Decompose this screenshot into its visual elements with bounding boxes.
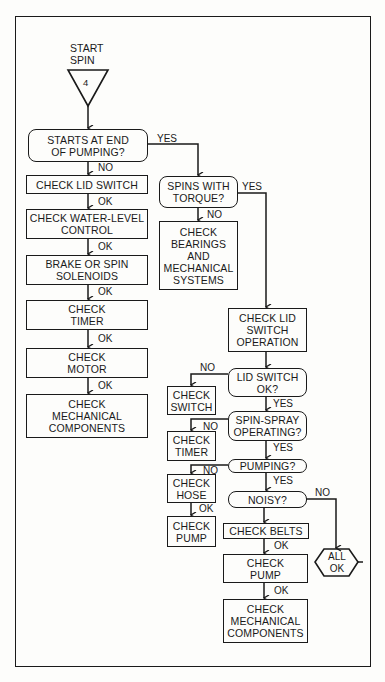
decision-text: PUMPING?: [240, 460, 296, 472]
start-spin-label: START SPIN: [70, 42, 103, 66]
decision-spin-spray-operating: SPIN-SPRAYOPERATING?: [228, 411, 307, 441]
step-text: CHECK BELTS: [229, 525, 302, 537]
step-text: SOLENOIDS: [46, 270, 129, 282]
step-text: TIMER: [173, 446, 210, 458]
ok-label-hose: OK: [199, 503, 213, 514]
step-text: PUMP: [173, 532, 210, 544]
ok-label-pump: OK: [274, 585, 288, 596]
decision-text-1: STARTS AT END: [47, 134, 129, 146]
ok-label: OK: [98, 241, 112, 252]
decision-starts-at-end-of-pumping: STARTS AT ENDOF PUMPING?: [28, 129, 148, 162]
step-text: CHECK: [173, 520, 210, 532]
decision-text: OK?: [237, 383, 299, 395]
start-connector-triangle: [68, 70, 108, 106]
no-label-decision-1: NO: [98, 162, 113, 173]
terminal-text: OK: [320, 563, 354, 575]
no-label-torque: NO: [207, 209, 222, 220]
terminal-text: ALL: [320, 551, 354, 563]
ok-label-belts: OK: [274, 540, 288, 551]
step-check-belts: CHECK BELTS: [223, 523, 309, 539]
decision-text: OPERATING?: [234, 426, 302, 438]
flow-connectors: [0, 0, 385, 682]
decision-text: SPINS WITH: [167, 180, 229, 192]
start-label-line1: START: [70, 42, 103, 54]
yes-label-decision-1: YES: [157, 133, 177, 144]
yes-label-spin-spray: YES: [273, 442, 293, 453]
step-text: COMPONENTS: [227, 627, 303, 639]
step-text: CHECK: [67, 351, 106, 363]
step-text: TIMER: [68, 315, 105, 327]
ok-label: OK: [98, 333, 112, 344]
step-text: CONTROL: [30, 224, 144, 236]
decision-noisy: NOISY?: [228, 491, 307, 508]
step-text: AND: [164, 250, 234, 262]
decision-text-2: OF PUMPING?: [47, 146, 129, 158]
decision-text: LID SWITCH: [237, 371, 299, 383]
decision-spins-with-torque: SPINS WITHTORQUE?: [159, 176, 238, 208]
no-label-lid-ok: NO: [200, 362, 215, 373]
step-check-pump: CHECKPUMP: [223, 554, 308, 583]
step-text: CHECK: [164, 226, 234, 238]
step-brake-or-spin-solenoids: BRAKE OR SPINSOLENOIDS: [26, 255, 148, 285]
step-check-pump-small: CHECKPUMP: [167, 516, 216, 547]
step-text: CHECK: [68, 303, 105, 315]
yes-label-torque: YES: [242, 181, 262, 192]
step-text: CHECK: [227, 603, 303, 615]
step-text: SYSTEMS: [164, 274, 234, 286]
step-text: PUMP: [247, 569, 284, 581]
all-ok-terminal: ALL OK: [320, 551, 354, 575]
start-label-line2: SPIN: [70, 54, 103, 66]
step-check-mechanical-components: CHECKMECHANICALCOMPONENTS: [26, 394, 148, 438]
yes-label-pumping: YES: [273, 475, 293, 486]
step-text: SWITCH: [237, 324, 299, 336]
step-text: BRAKE OR SPIN: [46, 258, 129, 270]
step-check-bearings: CHECKBEARINGSANDMECHANICALSYSTEMS: [159, 221, 238, 290]
step-text: MECHANICAL: [164, 262, 234, 274]
step-text: HOSE: [173, 489, 210, 501]
step-text: COMPONENTS: [49, 422, 125, 434]
step-check-water-level-control: CHECK WATER-LEVELCONTROL: [26, 209, 148, 239]
decision-text: TORQUE?: [167, 192, 229, 204]
step-text: CHECK: [170, 389, 212, 401]
decision-pumping: PUMPING?: [228, 459, 307, 473]
step-text: CHECK: [173, 434, 210, 446]
decision-text: SPIN-SPRAY: [234, 414, 302, 426]
step-text: BEARINGS: [164, 238, 234, 250]
ok-label: OK: [98, 196, 112, 207]
decision-lid-switch-ok: LID SWITCHOK?: [228, 368, 307, 397]
ok-label: OK: [98, 286, 112, 297]
yes-label-lid-ok: YES: [273, 398, 293, 409]
step-text: SWITCH: [170, 401, 212, 413]
step-text: CHECK: [247, 557, 284, 569]
step-text: CHECK WATER-LEVEL: [30, 212, 144, 224]
step-text: OPERATION: [237, 336, 299, 348]
step-check-mechanical-components-right: CHECKMECHANICALCOMPONENTS: [223, 599, 308, 643]
step-check-timer: CHECKTIMER: [26, 300, 148, 330]
step-text: CHECK LID SWITCH: [36, 179, 138, 191]
step-check-lid-switch-operation: CHECK LIDSWITCHOPERATION: [228, 308, 307, 352]
step-text: MOTOR: [67, 363, 106, 375]
step-check-switch: CHECKSWITCH: [167, 386, 216, 415]
step-text: CHECK: [49, 398, 125, 410]
step-text: CHECK: [173, 477, 210, 489]
connector-number: 4: [83, 77, 88, 88]
step-check-lid-switch: CHECK LID SWITCH: [26, 175, 148, 194]
step-check-timer-right: CHECKTIMER: [167, 431, 216, 461]
decision-text: NOISY?: [248, 494, 287, 506]
no-label-noisy: NO: [315, 487, 330, 498]
step-check-motor: CHECKMOTOR: [26, 348, 148, 378]
step-text: MECHANICAL: [49, 410, 125, 422]
ok-label: OK: [98, 380, 112, 391]
step-text: MECHANICAL: [227, 615, 303, 627]
step-text: CHECK LID: [237, 312, 299, 324]
step-check-hose: CHECKHOSE: [167, 474, 216, 503]
